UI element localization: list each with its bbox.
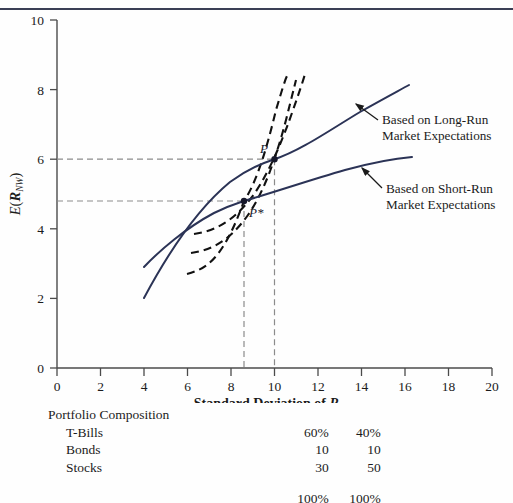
y-axis-title-sub: NW — [15, 177, 25, 193]
frontier-curves-group — [144, 85, 412, 298]
table-row: Bonds 10 10 — [48, 441, 381, 459]
svg-text:Standard Deviation of RNW: Standard Deviation of RNW — [194, 396, 355, 403]
x-tick-0: 0 — [54, 379, 61, 394]
x-tick-6: 6 — [184, 379, 191, 394]
chart-plot-svg: 10 8 6 4 2 0 — [0, 10, 513, 403]
y-axis-title-R: R — [7, 192, 23, 203]
row-bonds-col1: 10 — [179, 441, 329, 459]
y-tick-10: 10 — [31, 13, 45, 28]
row-label-tbills: T-Bills — [48, 424, 179, 442]
y-axis-title: E(RNW) — [7, 173, 25, 217]
indifference-curve-2 — [191, 80, 296, 253]
x-tick-20: 20 — [485, 379, 499, 394]
x-tick-2: 2 — [97, 379, 104, 394]
annotation-short-run-line1: Based on Short-Run — [386, 181, 493, 196]
figure-page: 10 8 6 4 2 0 — [0, 0, 513, 503]
x-axis-ticks — [57, 368, 492, 376]
y-tick-0: 0 — [37, 361, 44, 376]
table-row: T-Bills 60% 40% — [48, 424, 381, 442]
x-axis-title-sub: NW — [338, 403, 355, 404]
x-tick-18: 18 — [442, 379, 456, 394]
row-total-col1: 100% — [179, 476, 329, 503]
annotation-long-run-line1: Based on Long-Run — [382, 112, 489, 127]
chart-figure: 10 8 6 4 2 0 — [0, 10, 513, 403]
svg-text:E(RNW): E(RNW) — [7, 173, 25, 217]
y-tick-6: 6 — [37, 152, 44, 167]
row-stocks-col2: 50 — [329, 459, 381, 477]
row-tbills-col1: 60% — [179, 424, 329, 442]
annotation-long-run: Based on Long-Run Market Expectations — [356, 104, 492, 143]
row-label-bonds: Bonds — [48, 441, 179, 459]
x-axis-title: Standard Deviation of RNW — [194, 396, 355, 403]
row-label-stocks: Stocks — [48, 459, 179, 477]
x-tick-4: 4 — [141, 379, 148, 394]
table-row: Stocks 30 50 — [48, 459, 381, 477]
y-tick-4: 4 — [37, 222, 44, 237]
x-axis-title-R: R — [329, 396, 339, 403]
point-P-label: P — [259, 141, 268, 156]
y-tick-2: 2 — [37, 291, 44, 306]
row-label-total — [48, 476, 179, 503]
table-title-row: Portfolio Composition — [48, 406, 381, 424]
x-tick-8: 8 — [228, 379, 235, 394]
y-axis-ticks — [50, 20, 57, 368]
y-tick-8: 8 — [37, 83, 44, 98]
point-P-marker — [271, 156, 277, 162]
row-total-col2: 100% — [329, 476, 381, 503]
x-axis-tick-labels: 0 2 4 6 8 10 12 14 16 18 20 — [54, 379, 499, 394]
x-tick-14: 14 — [355, 379, 369, 394]
row-stocks-col1: 30 — [179, 459, 329, 477]
row-bonds-col2: 10 — [329, 441, 381, 459]
portfolio-composition-title: Portfolio Composition — [48, 406, 179, 424]
x-tick-16: 16 — [398, 379, 412, 394]
point-Pstar-label: P* — [248, 205, 264, 220]
annotation-short-run-arrow — [362, 168, 382, 188]
annotation-long-run-line2: Market Expectations — [382, 128, 492, 143]
x-tick-10: 10 — [268, 379, 282, 394]
x-tick-12: 12 — [311, 379, 325, 394]
short-run-frontier-curve — [144, 157, 412, 267]
row-tbills-col2: 40% — [329, 424, 381, 442]
y-axis-title-E: E — [7, 206, 23, 216]
portfolio-composition-table: Portfolio Composition T-Bills 60% 40% Bo… — [48, 406, 381, 503]
portfolio-composition-area: Portfolio Composition T-Bills 60% 40% Bo… — [0, 404, 513, 503]
indifference-curve-1 — [187, 76, 287, 274]
annotation-short-run: Based on Short-Run Market Expectations — [362, 168, 496, 212]
point-Pstar-marker — [241, 198, 247, 204]
x-axis-title-main: Standard Deviation of — [194, 396, 330, 403]
table-totals-row: 100% 100% — [48, 476, 381, 503]
tangency-points-group: P P* — [241, 141, 278, 220]
indifference-curves-group — [187, 74, 305, 274]
annotation-short-run-line2: Market Expectations — [386, 197, 496, 212]
guide-lines-group — [57, 159, 275, 368]
y-axis-tick-labels: 10 8 6 4 2 0 — [31, 13, 45, 376]
